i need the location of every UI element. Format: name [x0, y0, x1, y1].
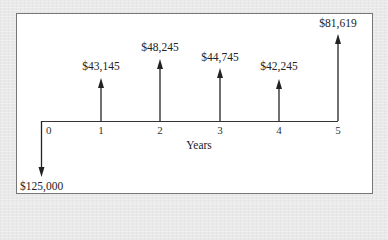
cash-flow-label-0: $125,000	[20, 180, 63, 193]
tick-label-2: 2	[157, 124, 163, 136]
cash-flow-label-1: $43,145	[82, 60, 120, 73]
tick-label-1: 1	[98, 124, 104, 136]
cash-flow-label-5: $81,619	[319, 17, 357, 30]
diagram-panel	[17, 14, 373, 194]
axis-label-years: Years	[186, 139, 212, 151]
cash-flow-label-2: $48,245	[141, 41, 179, 54]
tick-label-0: 0	[46, 124, 52, 136]
tick-label-5: 5	[335, 124, 341, 136]
tick-label-3: 3	[217, 124, 223, 136]
cash-flow-label-4: $42,245	[260, 60, 298, 73]
cash-flow-label-3: $44,745	[201, 51, 239, 64]
tick-label-4: 4	[276, 124, 282, 136]
cash-flow-diagram: $125,000 0 $43,145 1 $48,245 2 $44,745 3…	[0, 0, 388, 203]
